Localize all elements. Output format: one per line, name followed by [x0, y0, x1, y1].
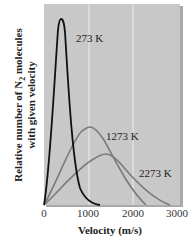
maxwell-boltzmann-chart: 273 K 1273 K 2273 K 0 1000 2000 3000 Vel… — [0, 0, 191, 243]
xtick-1000: 1000 — [77, 207, 100, 219]
y-axis-title: Relative number of N2 molecules with giv… — [12, 28, 37, 182]
x-axis-title: Velocity (m/s) — [78, 224, 142, 237]
xtick-2000: 2000 — [122, 207, 145, 219]
y-axis-title-line2: with given velocity — [25, 61, 37, 149]
xtick-3000: 3000 — [166, 207, 189, 219]
xtick-0: 0 — [41, 207, 47, 219]
label-273k: 273 K — [76, 32, 103, 44]
label-2273k: 2273 K — [139, 167, 172, 179]
label-1273k: 1273 K — [106, 130, 139, 142]
